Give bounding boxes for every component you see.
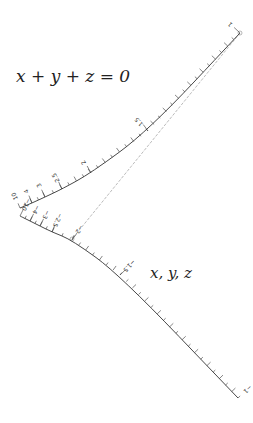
tick-label: −4: [31, 204, 41, 215]
tick-label: −10: [21, 198, 33, 213]
scale-label: x, y, z: [150, 264, 192, 282]
tick-label: 10: [9, 191, 18, 201]
upper-scale-branch: [18, 28, 240, 208]
tick-label: −1.5: [122, 258, 137, 274]
tick-label: −2.5: [52, 212, 64, 228]
equation-title: x + y + z = 0: [16, 66, 130, 86]
nomogram-canvas: 11.522.53410−10−4−3−2.5−2−1.5−1 x + y + …: [0, 0, 253, 423]
tick-label: 1.5: [133, 116, 145, 128]
tick-label: 1: [226, 21, 234, 29]
lower-scale-branch: [20, 209, 240, 398]
tick-label: −1: [242, 384, 253, 395]
tick-label: −3: [41, 209, 51, 220]
tick-label: 2.5: [50, 172, 61, 184]
tick-label: −2: [74, 224, 85, 235]
index-line: [70, 31, 242, 241]
nomogram-svg: 11.522.53410−10−4−3−2.5−2−1.5−1: [0, 0, 253, 423]
tick-label: 2: [79, 159, 87, 166]
tick-label: 4: [22, 188, 30, 194]
tick-label: 3: [35, 182, 43, 189]
